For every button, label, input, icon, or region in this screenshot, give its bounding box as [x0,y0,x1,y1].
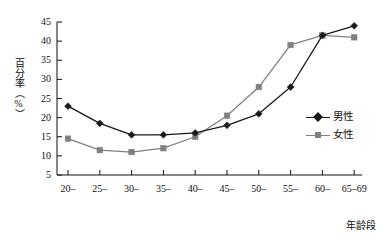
x-axis-tick-marks [68,170,354,175]
x-axis-tick-label: 50– [251,184,266,194]
y-axis-tick-label: 10 [29,151,51,161]
data-point-marker [224,113,230,119]
x-axis-tick-label: 30– [124,184,139,194]
y-axis-tick-label: 35 [29,55,51,65]
data-point-marker [65,103,72,110]
x-axis-tick-label: 55– [283,184,298,194]
legend-swatch-male [306,111,330,123]
data-point-marker [160,131,167,138]
line-chart: 百分率（%） 51015202530354045 20–25–30–35–40–… [0,0,384,238]
data-point-marker [129,149,135,155]
x-axis-tick-label: 25– [92,184,107,194]
legend-label-male: 男性 [333,108,353,126]
data-point-marker [256,84,262,90]
data-point-marker [351,22,358,29]
x-axis-tick-label: 20– [61,184,76,194]
data-point-marker [288,42,294,48]
y-axis-tick-label: 20 [29,113,51,123]
legend: 男性 女性 [306,108,353,144]
data-point-marker [97,147,103,153]
y-axis-tick-marks [57,22,62,175]
data-point-marker [128,131,135,138]
data-point-marker [161,145,167,151]
data-point-marker [65,136,71,142]
x-axis-tick-label: 45– [220,184,235,194]
data-point-marker [224,122,231,129]
x-axis-tick-label: 60– [315,184,330,194]
y-axis-tick-label: 40 [29,36,51,46]
legend-swatch-female [306,129,330,141]
x-axis-tick-label: 65–69 [342,184,367,194]
diamond-marker-icon [313,112,323,122]
y-axis-tick-label: 45 [29,17,51,27]
y-axis-label: 百分率（%） [2,58,24,119]
square-marker-icon [315,132,321,138]
y-axis-tick-label: 15 [29,132,51,142]
data-point-marker [96,120,103,127]
y-axis-tick-label: 5 [29,170,51,180]
data-point-marker [351,35,357,41]
y-axis-tick-label: 30 [29,74,51,84]
legend-item-male: 男性 [306,108,353,126]
legend-label-female: 女性 [333,126,353,144]
x-axis-tick-label: 35– [156,184,171,194]
y-axis-tick-label: 25 [29,94,51,104]
legend-item-female: 女性 [306,126,353,144]
x-axis-tick-label: 40– [188,184,203,194]
x-axis-label: 年龄段 [346,217,376,232]
